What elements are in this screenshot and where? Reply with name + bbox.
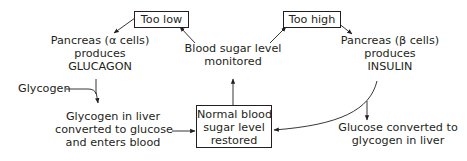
node-line: monitored <box>176 55 290 68</box>
node-line: produces <box>340 47 440 60</box>
too-high-label: Too high <box>284 12 340 27</box>
node-line: Glucose converted to <box>336 121 460 134</box>
liver-glycogen-to-glucose-node: Glycogen in liver converted to glucose a… <box>55 110 171 149</box>
node-line: glycogen in liver <box>336 134 460 147</box>
node-line: Glycogen in liver <box>55 110 171 123</box>
node-line: and enters blood <box>55 136 171 149</box>
node-line: Normal blood <box>197 108 271 121</box>
normal-blood-sugar-box: Normal blood sugar level restored <box>196 105 272 148</box>
glycogen-label-node: Glycogen <box>18 82 68 95</box>
arrow-too-low-to-pancreas-alpha <box>114 18 135 33</box>
arrow-glucagon-to-liver <box>96 79 98 103</box>
blood-sugar-monitored-node: Blood sugar level monitored <box>176 42 290 68</box>
node-line: converted to glucose <box>55 123 171 136</box>
node-line: Pancreas (β cells) <box>340 34 440 47</box>
glucose-to-glycogen-node: Glucose converted to glycogen in liver <box>336 121 460 147</box>
too-high-box: Too high <box>283 11 341 28</box>
too-low-box: Too low <box>134 11 189 28</box>
node-line: Glycogen <box>18 82 68 95</box>
too-low-label: Too low <box>135 12 188 27</box>
arrow-monitored-to-too-low <box>180 27 195 43</box>
line-glycogen-to-liver <box>66 89 96 94</box>
node-line: Blood sugar level <box>176 42 290 55</box>
pancreas-beta-node: Pancreas (β cells) produces INSULIN <box>340 34 440 73</box>
pancreas-alpha-node: Pancreas (α cells) produces GLUCAGON <box>50 34 150 73</box>
node-line: produces <box>50 47 150 60</box>
arrow-monitored-to-too-high <box>270 27 286 43</box>
node-line: Pancreas (α cells) <box>50 34 150 47</box>
node-line: sugar level <box>197 121 271 134</box>
node-line: restored <box>197 134 271 147</box>
node-line: GLUCAGON <box>50 60 150 73</box>
node-line: INSULIN <box>340 60 440 73</box>
